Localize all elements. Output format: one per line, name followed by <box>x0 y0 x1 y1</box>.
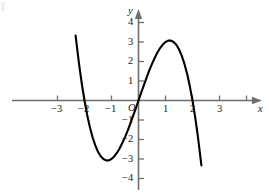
x-tick-label-1: 1 <box>163 104 168 115</box>
x-tick-label--2: −2 <box>78 104 89 115</box>
x-tick-label--3: −3 <box>51 104 62 115</box>
x-tick-label-2: 2 <box>190 104 195 115</box>
y-tick-label--3: −3 <box>122 154 133 165</box>
x-axis-label: x <box>258 104 263 115</box>
y-tick-label--4: −4 <box>122 173 133 184</box>
y-tick-label--1: −1 <box>122 115 133 126</box>
y-tick-label-2: 2 <box>128 56 133 67</box>
x-tick-label--1: −1 <box>105 104 116 115</box>
y-tick-label-3: 3 <box>128 37 133 48</box>
cubic-function-plot <box>0 0 269 195</box>
y-tick-label-1: 1 <box>128 76 133 87</box>
y-tick-label-4: 4 <box>128 17 133 28</box>
origin-label: O <box>128 103 136 114</box>
graph-figure: −3 −2 −1 1 2 3 O 4 3 2 1 −1 −2 −3 −4 y x <box>0 0 269 195</box>
y-axis-label: y <box>128 6 133 17</box>
x-tick-label-3: 3 <box>217 104 222 115</box>
y-tick-label--2: −2 <box>122 134 133 145</box>
